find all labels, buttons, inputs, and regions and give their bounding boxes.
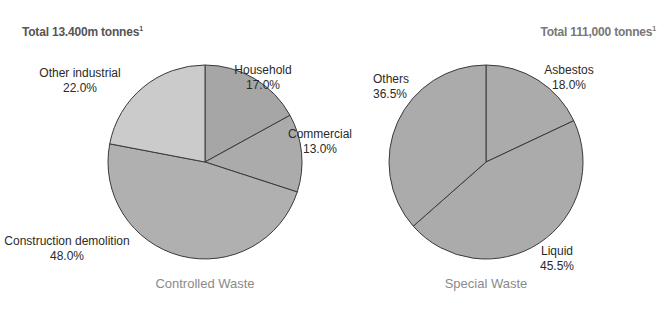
- pie-special-waste: [389, 65, 583, 259]
- label-construction-demolition: Construction demolition: [4, 234, 129, 248]
- title-controlled-waste: Controlled Waste: [155, 276, 254, 291]
- value-asbestos: 18.0%: [552, 78, 586, 92]
- pie-controlled-waste: [108, 65, 302, 259]
- value-household: 17.0%: [246, 78, 280, 92]
- value-other-industrial: 22.0%: [63, 81, 97, 95]
- pie-charts: Household 17.0% Commercial 13.0% Constru…: [0, 0, 672, 309]
- label-asbestos: Asbestos: [544, 63, 593, 77]
- label-commercial: Commercial: [288, 127, 352, 141]
- label-others: Others: [373, 72, 409, 86]
- label-household: Household: [234, 63, 291, 77]
- label-other-industrial: Other industrial: [39, 66, 120, 80]
- value-liquid: 45.5%: [540, 259, 574, 273]
- value-construction-demolition: 48.0%: [50, 249, 84, 263]
- label-liquid: Liquid: [541, 244, 573, 258]
- title-special-waste: Special Waste: [445, 276, 528, 291]
- value-others: 36.5%: [373, 87, 407, 101]
- value-commercial: 13.0%: [303, 142, 337, 156]
